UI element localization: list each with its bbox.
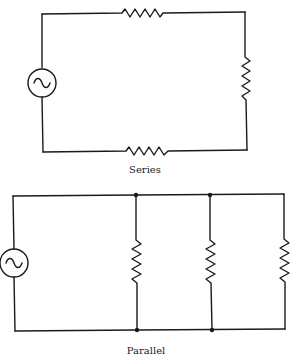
series-wire-left-bottom (42, 97, 43, 152)
series-resistor-top-icon (42, 9, 245, 17)
parallel-circuit (0, 193, 289, 332)
ac-source-icon (0, 249, 28, 277)
parallel-wire-left-bottom (14, 277, 15, 331)
parallel-resistor-1-icon (132, 195, 141, 330)
parallel-wire-left-top (13, 196, 14, 249)
ac-source-icon (28, 69, 56, 97)
junction-node-icon (210, 328, 214, 332)
parallel-label: Parallel (127, 345, 166, 356)
circuit-diagrams (0, 0, 296, 360)
junction-node-icon (135, 328, 139, 332)
junction-node-icon (134, 193, 138, 197)
parallel-top-rail (13, 194, 284, 196)
series-circuit (28, 9, 250, 155)
parallel-bottom-rail (15, 329, 285, 331)
parallel-resistor-3-icon (280, 194, 289, 329)
parallel-resistor-2-icon (206, 195, 215, 330)
series-label: Series (129, 164, 161, 175)
junction-node-icon (208, 193, 212, 197)
series-resistor-right-icon (242, 12, 250, 150)
series-resistor-bottom-icon (43, 147, 247, 155)
